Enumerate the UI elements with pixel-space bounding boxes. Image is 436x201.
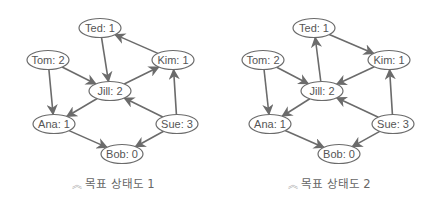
node-kim: Kim: 1: [152, 51, 194, 70]
diagram-panel-1: Ted: 1Tom: 2Kim: 1Jill: 2Ana: 1Sue: 3Bob…: [0, 0, 218, 201]
edge-ana-to-bob: [69, 131, 107, 148]
node-ted: Ted: 1: [79, 19, 121, 38]
caption-2: ︽목표 상태도 2: [288, 175, 371, 191]
caption-1: ︽목표 상태도 1: [72, 175, 155, 191]
edge-tom-to-jill: [277, 67, 309, 84]
double-chevron-up-icon: ︽: [288, 179, 298, 190]
edge-sue-to-jill: [124, 98, 163, 117]
node-kim: Kim: 1: [368, 51, 410, 70]
node-bob: Bob: 0: [318, 145, 360, 164]
node-sue: Sue: 3: [372, 115, 414, 134]
graph-canvas-2: Ted: 1Tom: 2Kim: 1Jill: 2Ana: 1Sue: 3Bob…: [218, 0, 436, 201]
node-label: Tom: 2: [246, 54, 279, 66]
node-ana: Ana: 1: [249, 115, 291, 134]
node-sue: Sue: 3: [156, 115, 198, 134]
edge-kim-to-ted: [115, 35, 158, 54]
node-label: Ana: 1: [254, 118, 286, 130]
node-label: Kim: 1: [157, 54, 188, 66]
diagram-panel-2: Ted: 1Tom: 2Kim: 1Jill: 2Ana: 1Sue: 3Bob…: [218, 0, 436, 201]
double-chevron-up-icon: ︽: [72, 179, 82, 190]
edge-sue-to-bob: [352, 131, 379, 146]
node-jill: Jill: 2: [89, 82, 131, 101]
node-label: Ted: 1: [85, 22, 115, 34]
node-tom: Tom: 2: [27, 51, 69, 70]
node-label: Ted: 1: [299, 22, 329, 34]
node-bob: Bob: 0: [101, 145, 143, 164]
node-ted: Ted: 1: [293, 19, 335, 38]
node-jill: Jill: 2: [301, 82, 343, 101]
node-label: Sue: 3: [161, 118, 193, 130]
edge-sue-to-kim: [390, 69, 393, 114]
edge-sue-to-bob: [135, 131, 163, 146]
node-label: Tom: 2: [31, 54, 64, 66]
edge-tom-to-ana: [49, 69, 53, 114]
node-label: Sue: 3: [377, 118, 409, 130]
edge-tom-to-ana: [264, 69, 269, 114]
edge-ted-to-jill: [102, 37, 109, 81]
edge-sue-to-kim: [174, 69, 177, 114]
node-tom: Tom: 2: [242, 51, 284, 70]
graph-canvas-1: Ted: 1Tom: 2Kim: 1Jill: 2Ana: 1Sue: 3Bob…: [0, 0, 218, 201]
node-label: Bob: 0: [323, 148, 355, 160]
node-label: Jill: 2: [97, 85, 122, 97]
edge-jill-to-ana: [67, 99, 97, 117]
caption-text-2: 목표 상태도 2: [301, 177, 371, 191]
node-label: Kim: 1: [373, 54, 404, 66]
edge-tom-to-jill: [62, 67, 96, 84]
node-label: Ana: 1: [38, 118, 70, 130]
node-label: Bob: 0: [106, 148, 138, 160]
node-ana: Ana: 1: [33, 115, 75, 134]
edge-ted-to-kim: [329, 35, 373, 54]
edge-jill-to-ana: [282, 99, 310, 117]
edge-sue-to-jill: [337, 98, 379, 117]
node-label: Jill: 2: [309, 85, 334, 97]
edge-ana-to-bob: [285, 131, 324, 148]
edge-jill-to-ted: [315, 37, 321, 81]
edge-kim-to-jill: [337, 67, 375, 84]
caption-text-1: 목표 상태도 1: [85, 177, 155, 191]
edge-jill-to-kim: [124, 67, 159, 84]
